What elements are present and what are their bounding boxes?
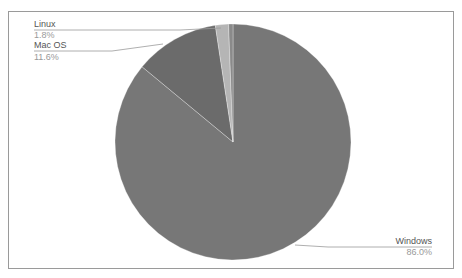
windows-percent: 86.0% — [406, 247, 432, 257]
linux-percent: 1.8% — [34, 30, 55, 40]
pie-chart: Linux 1.8% Mac OS 11.6% Windows 86.0% — [0, 0, 462, 278]
macos-label: Mac OS — [34, 40, 67, 50]
linux-callout-line — [34, 28, 221, 30]
pie-slices — [115, 24, 351, 260]
linux-label: Linux — [34, 19, 56, 29]
windows-label: Windows — [395, 236, 432, 246]
macos-percent: 11.6% — [34, 52, 59, 62]
